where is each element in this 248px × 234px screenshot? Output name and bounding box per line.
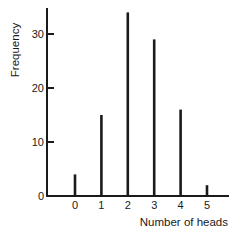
bars bbox=[75, 12, 207, 196]
y-tick-label: 30 bbox=[32, 28, 44, 40]
y-tick-label: 20 bbox=[32, 82, 44, 94]
y-tick-label: 0 bbox=[38, 190, 44, 202]
y-axis-ticks: 0102030 bbox=[32, 28, 54, 202]
y-axis-label: Frequency bbox=[9, 23, 21, 78]
x-tick-label: 5 bbox=[204, 199, 210, 211]
x-tick-label: 2 bbox=[125, 199, 131, 211]
x-tick-label: 1 bbox=[98, 199, 104, 211]
x-axis-ticks: 012345 bbox=[72, 199, 210, 211]
x-tick-label: 3 bbox=[151, 199, 157, 211]
frequency-chart: Frequency 0102030 012345 Number of heads bbox=[0, 0, 248, 234]
x-tick-label: 0 bbox=[72, 199, 78, 211]
y-tick-label: 10 bbox=[32, 136, 44, 148]
x-tick-label: 4 bbox=[178, 199, 184, 211]
x-axis-label: Number of heads bbox=[140, 216, 228, 228]
